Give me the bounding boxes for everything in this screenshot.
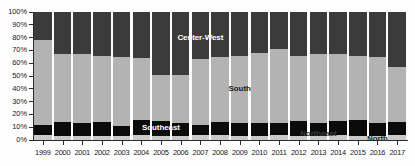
bar-segment-northeast[interactable]: [172, 123, 189, 136]
bar-segment-center-west[interactable]: [231, 12, 248, 56]
bar-segment-center-west[interactable]: [211, 12, 228, 57]
bar-segment-center-west[interactable]: [290, 12, 307, 56]
x-axis-tick-mark: [318, 141, 319, 145]
bar-segment-northeast[interactable]: [152, 121, 169, 136]
bar-1999[interactable]: [34, 12, 51, 140]
bar-segment-center-west[interactable]: [172, 12, 189, 75]
x-axis-tick-label: 2012: [291, 147, 307, 158]
bar-segment-northeast[interactable]: [270, 123, 287, 135]
bar-segment-northeast[interactable]: [113, 126, 130, 136]
bar-2014[interactable]: [329, 12, 346, 140]
bar-segment-northeast[interactable]: [192, 125, 209, 135]
x-axis-tick-label: 2014: [330, 147, 346, 158]
y-axis-tick-label: 20%: [12, 109, 27, 119]
bar-segment-south[interactable]: [54, 54, 71, 122]
x-axis-tick-label: 2008: [212, 147, 228, 158]
x-axis-tick-label: 2010: [252, 147, 268, 158]
bar-2001[interactable]: [73, 12, 90, 140]
bar-2007[interactable]: [192, 12, 209, 140]
bar-segment-south[interactable]: [310, 54, 327, 123]
bar-2006[interactable]: [172, 12, 189, 140]
bar-segment-south[interactable]: [270, 49, 287, 123]
bar-segment-northeast[interactable]: [93, 122, 110, 136]
bar-segment-center-west[interactable]: [349, 12, 366, 56]
bar-segment-south[interactable]: [152, 75, 169, 121]
bar-segment-center-west[interactable]: [388, 12, 405, 67]
bar-segment-south[interactable]: [388, 67, 405, 122]
bar-segment-northeast[interactable]: [231, 123, 248, 136]
x-axis-tick-mark: [161, 141, 162, 145]
bar-segment-northeast[interactable]: [73, 123, 90, 136]
bar-2004[interactable]: [133, 12, 150, 140]
bar-2015[interactable]: [349, 12, 366, 140]
bar-segment-south[interactable]: [231, 56, 248, 124]
bar-2008[interactable]: [211, 12, 228, 140]
bar-2012[interactable]: [290, 12, 307, 140]
bar-segment-south[interactable]: [349, 56, 366, 120]
bar-segment-northeast[interactable]: [54, 122, 71, 136]
bar-segment-northeast[interactable]: [34, 125, 51, 135]
bar-segment-center-west[interactable]: [192, 12, 209, 59]
bar-segment-northeast[interactable]: [349, 120, 366, 137]
bar-segment-south[interactable]: [93, 56, 110, 123]
y-axis: 0%10%20%30%40%50%60%70%80%90%100%: [0, 12, 33, 140]
bar-segment-northeast[interactable]: [133, 120, 150, 135]
bar-segment-center-west[interactable]: [73, 12, 90, 54]
y-axis-tick: 50%: [12, 71, 33, 81]
bar-segment-northeast[interactable]: [211, 122, 228, 135]
bar-segment-center-west[interactable]: [310, 12, 327, 54]
bar-segment-northeast[interactable]: [251, 123, 268, 136]
bar-segment-south[interactable]: [290, 56, 307, 121]
bar-2002[interactable]: [93, 12, 110, 140]
bar-segment-center-west[interactable]: [133, 12, 150, 58]
bar-segment-northeast[interactable]: [329, 121, 346, 135]
bar-segment-south[interactable]: [329, 54, 346, 121]
x-axis-tick-label: 2011: [272, 147, 287, 158]
bar-segment-south[interactable]: [73, 54, 90, 123]
stacked-bar-chart: 0%10%20%30%40%50%60%70%80%90%100% 199920…: [0, 0, 415, 166]
y-axis-tick: 100%: [8, 7, 33, 17]
bar-segment-northeast[interactable]: [369, 123, 386, 136]
bar-2016[interactable]: [369, 12, 386, 140]
bar-segment-center-west[interactable]: [329, 12, 346, 54]
x-axis-tick-label: 2003: [114, 147, 130, 158]
bar-segment-south[interactable]: [192, 59, 209, 124]
bar-segment-south[interactable]: [172, 75, 189, 124]
bar-segment-south[interactable]: [113, 57, 130, 126]
bar-segment-center-west[interactable]: [369, 12, 386, 57]
bar-segment-center-west[interactable]: [251, 12, 268, 53]
bar-segment-northeast[interactable]: [290, 121, 307, 136]
bar-2017[interactable]: [388, 12, 405, 140]
x-axis-tick-label: 1999: [35, 147, 51, 158]
bar-segment-south[interactable]: [34, 40, 51, 124]
x-axis-tick-label: 2002: [94, 147, 110, 158]
bar-segment-center-west[interactable]: [34, 12, 51, 40]
bar-segment-south[interactable]: [251, 53, 268, 123]
bar-segment-center-west[interactable]: [93, 12, 110, 56]
y-axis-tick-label: 10%: [12, 122, 27, 132]
bar-2010[interactable]: [251, 12, 268, 140]
bar-2011[interactable]: [270, 12, 287, 140]
x-axis-tick-mark: [240, 141, 241, 145]
bar-segment-center-west[interactable]: [54, 12, 71, 54]
bar-segment-south[interactable]: [133, 58, 150, 119]
y-axis-tick-label: 60%: [12, 58, 27, 68]
bar-segment-south[interactable]: [211, 57, 228, 122]
y-axis-tick: 40%: [12, 84, 33, 94]
bar-segment-center-west[interactable]: [270, 12, 287, 49]
bar-segment-northeast[interactable]: [310, 123, 327, 136]
bar-2000[interactable]: [54, 12, 71, 140]
bar-2005[interactable]: [152, 12, 169, 140]
bar-segment-south[interactable]: [369, 57, 386, 124]
bar-segment-northeast[interactable]: [388, 122, 405, 135]
bar-2013[interactable]: [310, 12, 327, 140]
y-axis-tick: 10%: [12, 122, 33, 132]
bar-segment-center-west[interactable]: [152, 12, 169, 75]
bar-2009[interactable]: [231, 12, 248, 140]
y-axis-tick: 20%: [12, 109, 33, 119]
bar-2003[interactable]: [113, 12, 130, 140]
bar-segment-center-west[interactable]: [113, 12, 130, 57]
x-axis-tick-mark: [338, 141, 339, 145]
y-axis-tick-label: 30%: [12, 97, 27, 107]
x-axis-tick-mark: [102, 141, 103, 145]
